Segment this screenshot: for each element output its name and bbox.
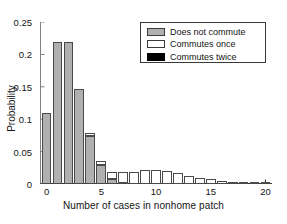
bar-segment <box>96 165 106 184</box>
bar-segment <box>85 133 95 136</box>
bar-segment <box>118 172 128 182</box>
bar-stack <box>85 133 95 184</box>
bar-segment <box>64 42 74 184</box>
bar-segment <box>184 176 194 184</box>
legend-label: Does not commute <box>170 27 246 37</box>
legend-swatch-icon <box>147 40 165 48</box>
bar-segment <box>140 170 150 184</box>
bar-stack <box>118 172 128 184</box>
bar-stack <box>140 170 150 184</box>
y-tick-label: 0.2 <box>19 49 32 60</box>
x-tick-label: 0 <box>44 186 49 197</box>
bar-stack <box>129 172 139 184</box>
bar-segment <box>151 170 161 184</box>
bar-segment <box>173 173 183 184</box>
x-tick-label: 20 <box>260 186 271 197</box>
x-tick-label: 5 <box>99 186 104 197</box>
bar-stack <box>151 170 161 184</box>
legend-item: Does not commute <box>144 26 262 38</box>
y-tick-label: 0 <box>27 179 32 190</box>
legend: Does not commuteCommutes onceCommutes tw… <box>140 22 266 63</box>
y-axis-title: Probability <box>6 64 17 154</box>
bar-stack <box>184 176 194 184</box>
legend-item: Commutes twice <box>144 51 262 63</box>
bar-stack <box>64 42 74 184</box>
bar-segment <box>42 113 52 184</box>
y-tick-label: 0.1 <box>19 114 32 125</box>
legend-label: Commutes twice <box>170 52 237 62</box>
x-tick-label: 10 <box>151 186 162 197</box>
bar-stack <box>74 89 84 184</box>
bar-segment <box>85 136 95 184</box>
bar-segment <box>53 42 63 184</box>
histogram-figure: 00.050.10.150.20.25 Probability 05101520… <box>0 0 287 224</box>
bar-segment <box>129 172 139 184</box>
legend-label: Commutes once <box>170 39 236 49</box>
bar-stack <box>107 172 117 184</box>
bar-segment <box>96 161 106 166</box>
bar-stack <box>173 173 183 184</box>
x-axis-tick-labels: 05101520 <box>40 184 272 200</box>
x-axis-title: Number of cases in nonhome patch <box>0 200 287 211</box>
legend-item: Commutes once <box>144 38 262 50</box>
bar-segment <box>74 89 84 184</box>
y-tick-label: 0.25 <box>14 17 33 28</box>
bar-stack <box>96 161 106 184</box>
legend-swatch-icon <box>147 53 165 61</box>
legend-swatch-icon <box>147 28 165 36</box>
bar-stack <box>53 42 63 184</box>
bar-segment <box>162 171 172 184</box>
bar-stack <box>42 113 52 184</box>
bar-stack <box>162 171 172 184</box>
bar-segment <box>107 172 117 178</box>
x-tick-label: 15 <box>205 186 216 197</box>
